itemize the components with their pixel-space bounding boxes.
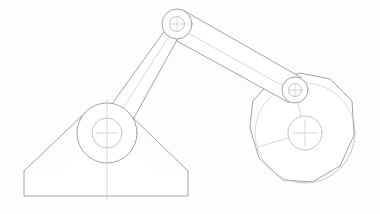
connecting-rod-centerline [179, 28, 294, 92]
drawing-canvas: Mechanical Linkage Assembly Four-bar sty… [0, 0, 380, 214]
base-bracket-assembly [24, 100, 188, 200]
technical-drawing [0, 0, 380, 214]
